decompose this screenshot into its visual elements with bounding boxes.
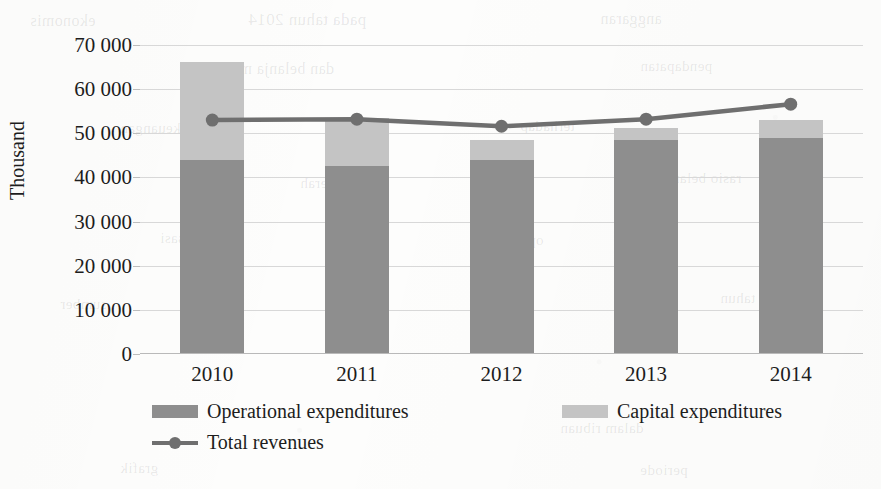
legend-item[interactable]: Operational expenditures xyxy=(152,400,409,423)
x-axis-tick-label: 2014 xyxy=(770,362,812,387)
line-data-point[interactable]: Total revenues 2011: 53200 xyxy=(350,113,363,126)
line-data-point[interactable]: Total revenues 2014: 56600 xyxy=(784,98,797,111)
line-data-point[interactable]: Total revenues 2013: 53200 xyxy=(640,113,653,126)
bleedthrough-text: anggaran xyxy=(600,10,662,28)
x-axis-tick-label: 2013 xyxy=(625,362,667,387)
chart-legend: Operational expendituresCapital expendit… xyxy=(0,398,881,473)
y-axis-tick-mark xyxy=(133,177,140,178)
y-axis-tick-mark xyxy=(133,222,140,223)
x-axis-baseline xyxy=(140,353,863,354)
bleedthrough-text: pada tahun 2014 xyxy=(248,10,366,30)
total-revenues-line-series: Total revenues 2010: 53000Total revenues… xyxy=(140,45,863,354)
legend-item[interactable]: Total revenues xyxy=(152,431,324,454)
y-axis-tick-label: 10 000 xyxy=(74,299,132,320)
line-data-point[interactable]: Total revenues 2012: 51600 xyxy=(495,120,508,133)
y-axis-tick-label: 20 000 xyxy=(74,255,132,276)
legend-item-label: Operational expenditures xyxy=(207,400,409,423)
legend-item-label: Capital expenditures xyxy=(617,400,782,423)
x-axis-tick-label: 2012 xyxy=(481,362,523,387)
x-axis-tick-label: 2010 xyxy=(191,362,233,387)
chart-figure: ekonomispada tahun 2014anggarandan belan… xyxy=(0,0,881,489)
y-axis-tick-mark xyxy=(133,354,140,355)
legend-line-marker-icon xyxy=(152,436,198,449)
y-axis-tick-mark xyxy=(133,133,140,134)
legend-item-label: Total revenues xyxy=(207,431,324,454)
y-axis-tick-label: 0 xyxy=(122,344,133,365)
y-axis-tick-mark xyxy=(133,45,140,46)
x-axis-tick-label: 2011 xyxy=(336,362,377,387)
y-axis-tick-label: 60 000 xyxy=(74,79,132,100)
y-axis-tick-label: 50 000 xyxy=(74,123,132,144)
y-axis-tick-mark xyxy=(133,89,140,90)
y-axis-title: Thousand xyxy=(6,121,29,200)
y-axis-tick-label: 30 000 xyxy=(74,211,132,232)
plot-area: Total revenues 2010: 53000Total revenues… xyxy=(140,45,863,354)
y-axis-tick-label: 70 000 xyxy=(74,35,132,56)
line-data-point[interactable]: Total revenues 2010: 53000 xyxy=(206,114,219,127)
legend-color-swatch-icon xyxy=(152,405,198,418)
y-axis-tick-mark xyxy=(133,310,140,311)
legend-item[interactable]: Capital expenditures xyxy=(562,400,782,423)
legend-color-swatch-icon xyxy=(562,405,608,418)
y-axis-tick-mark xyxy=(133,266,140,267)
y-axis-tick-label: 40 000 xyxy=(74,167,132,188)
x-axis-tick-labels: 20102011201220132014 xyxy=(140,362,863,392)
